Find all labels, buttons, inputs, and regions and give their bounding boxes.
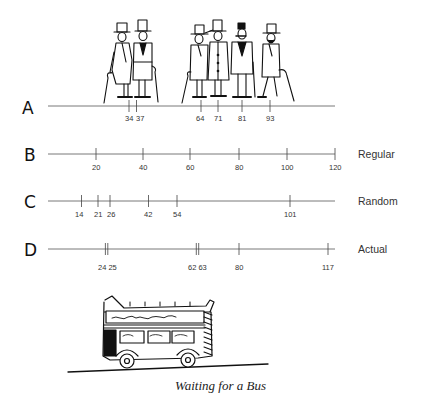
tick-label: 100 (281, 163, 294, 172)
tick-label: 37 (136, 114, 144, 123)
gentleman-figure (133, 20, 158, 102)
tick-label: 101 (284, 210, 297, 219)
tick-label: 64 (196, 114, 204, 123)
tick-label: 40 (139, 163, 147, 172)
tick-label: 21 (94, 210, 102, 219)
gentleman-figure (258, 24, 294, 101)
tick-label: 120 (329, 163, 342, 172)
series-label-actual: Actual (358, 243, 387, 255)
caption-text: Waiting for a Bus (175, 378, 266, 393)
tick-label: 42 (144, 210, 152, 219)
tick-label: 54 (173, 210, 181, 219)
tick-label: 14 (75, 210, 83, 219)
tick-label: 62 63 (188, 263, 207, 272)
tick-label: 80 (235, 263, 243, 272)
series-label-regular: Regular (358, 148, 395, 160)
gentleman-figure (104, 23, 132, 103)
row-letter-d: D (24, 240, 37, 260)
road-line (68, 364, 268, 372)
row-letter-a: A (22, 98, 34, 118)
tick-label: 60 (186, 163, 194, 172)
tick-label: 81 (238, 114, 246, 123)
tick-label: 20 (92, 163, 100, 172)
bus-illustration (68, 296, 268, 372)
row-b: B 20 40 60 80 100 120 Regular (24, 145, 395, 172)
bus-wheel-front (120, 354, 134, 368)
tick-label: 26 (107, 210, 115, 219)
row-a: A 34 37 64 71 81 93 (22, 98, 335, 123)
gentleman-figure (208, 20, 229, 96)
tick-label: 24 25 (98, 263, 117, 272)
waiting-for-bus-diagram: A 34 37 64 71 81 93 B 20 40 60 8 (0, 0, 421, 404)
series-label-random: Random (358, 195, 398, 207)
row-d: D 24 25 62 63 80 117 Actual (24, 240, 387, 272)
gentleman-figure (231, 23, 255, 97)
row-letter-b: B (24, 145, 36, 165)
gentlemen-illustration (104, 20, 294, 103)
tick-label: 34 (125, 114, 133, 123)
figure-caption: Waiting for a Bus (0, 378, 421, 394)
tick-label: 117 (322, 263, 334, 272)
bus-wheel-rear (181, 353, 195, 367)
row-letter-c: C (24, 192, 36, 212)
tick-label: 80 (235, 163, 243, 172)
row-c: C 14 21 26 42 54 101 Random (24, 192, 398, 219)
tick-label: 93 (266, 114, 274, 123)
tick-label: 71 (214, 114, 222, 123)
